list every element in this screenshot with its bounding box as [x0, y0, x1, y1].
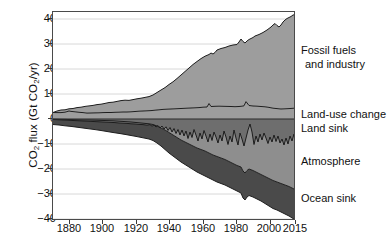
series-label-atmosphere: Atmosphere	[301, 155, 360, 168]
co2-flux-chart: CO2 flux (Gt CO2/yr) 40 30 20 10 0 −10 −…	[0, 0, 392, 247]
series-label-fossil-fuels-line2: and industry	[305, 58, 365, 71]
series-label-ocean-sink: Ocean sink	[301, 192, 356, 205]
series-area-fossil-fuels	[53, 15, 295, 114]
plot-svg	[53, 12, 295, 220]
plot-area	[52, 11, 295, 220]
series-label-land-sink: Land sink	[301, 122, 348, 135]
series-label-fossil-fuels-line1: Fossil fuels	[301, 44, 356, 57]
x-tick-label-2015: 2015	[275, 223, 315, 234]
y-axis-title-sub-2: 2	[32, 79, 41, 84]
series-label-land-use-change: Land-use change	[301, 108, 386, 121]
